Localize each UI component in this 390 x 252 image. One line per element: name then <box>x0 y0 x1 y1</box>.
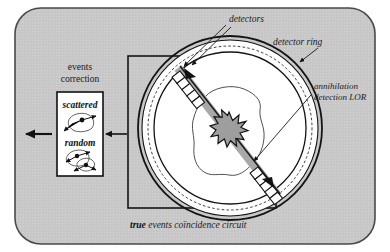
caption-rest: events coïncidence circuit <box>146 220 247 230</box>
caption-bold: true <box>130 220 147 230</box>
figure-canvas: detectors detector ring annihilation det… <box>0 0 390 252</box>
pet-diagram-svg: detectors detector ring annihilation det… <box>0 0 390 252</box>
annihilation-label-line1: annihilation <box>314 81 359 91</box>
scattered-label: scattered <box>62 100 98 110</box>
events-label-line2: correction <box>61 74 100 84</box>
detector-ring-label: detector ring <box>273 37 323 47</box>
caption: true events coïncidence circuit <box>130 220 247 230</box>
events-label-line1: events <box>68 62 93 72</box>
detectors-label: detectors <box>229 14 264 24</box>
annihilation-label-line2: detection LOR <box>314 92 367 102</box>
random-label: random <box>65 138 96 148</box>
